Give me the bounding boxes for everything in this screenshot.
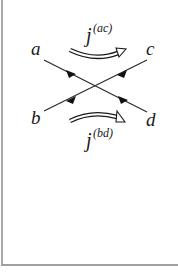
node-label-a: a bbox=[31, 38, 41, 59]
current-superscript-ac: (ac) bbox=[93, 21, 112, 35]
current-label-ac: j (ac) bbox=[83, 21, 112, 47]
current-arrow-bd-icon bbox=[70, 111, 125, 122]
node-label-d: d bbox=[146, 109, 156, 130]
arrowhead-icon bbox=[118, 96, 128, 104]
current-label-bd: j (bd) bbox=[83, 126, 113, 152]
current-base-bd: j bbox=[83, 129, 92, 152]
current-superscript-bd: (bd) bbox=[93, 126, 113, 140]
scattering-diagram: a b c d j (ac) j (bd) bbox=[0, 0, 178, 278]
node-label-b: b bbox=[31, 107, 41, 128]
current-arrow-ac-icon bbox=[70, 48, 126, 57]
arrowhead-icon bbox=[66, 70, 76, 78]
node-label-c: c bbox=[146, 38, 155, 59]
current-base-ac: j bbox=[83, 24, 92, 47]
